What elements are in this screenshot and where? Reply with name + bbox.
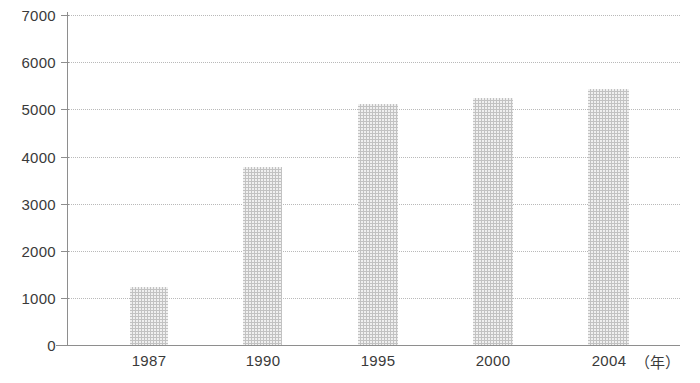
x-axis-label-2000: 2000 (476, 352, 511, 369)
plot-area (68, 15, 680, 345)
y-axis-label-2000: 2000 (0, 243, 56, 260)
x-axis-unit-label: （年） (635, 351, 680, 372)
y-axis-label-6000: 6000 (0, 54, 56, 71)
bar-1990 (243, 167, 282, 345)
bar-1995 (358, 104, 398, 345)
y-axis-label-1000: 1000 (0, 290, 56, 307)
y-axis-label-5000: 5000 (0, 101, 56, 118)
y-axis-label-0: 0 (0, 337, 56, 354)
x-axis-label-2004: 2004 (592, 352, 627, 369)
y-axis-label-3000: 3000 (0, 196, 56, 213)
bar-1987 (130, 287, 168, 345)
x-axis-label-1995: 1995 (361, 352, 396, 369)
x-axis-label-1990: 1990 (246, 352, 281, 369)
x-axis-line (56, 345, 680, 346)
bar-2004 (588, 89, 629, 345)
bar-chart: 7000 6000 5000 4000 3000 2000 1000 0 (0, 0, 700, 383)
x-axis-label-1987: 1987 (132, 352, 167, 369)
y-axis-label-4000: 4000 (0, 149, 56, 166)
bar-2000 (473, 98, 513, 345)
y-axis-label-7000: 7000 (0, 7, 56, 24)
